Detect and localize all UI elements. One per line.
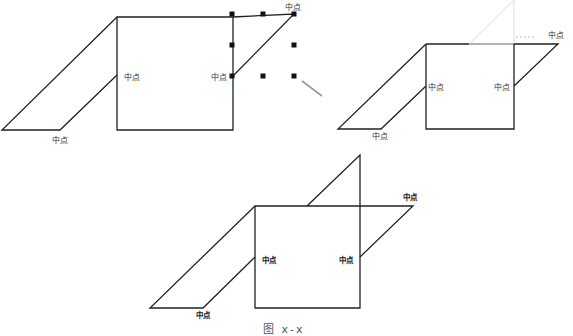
- midpoint-label: 中点: [428, 84, 444, 92]
- figure-caption: 图 x-x: [263, 324, 305, 335]
- handle-e[interactable]: [292, 43, 297, 48]
- handle-n[interactable]: [261, 12, 266, 17]
- midpoint-label: 中点: [52, 137, 68, 145]
- midpoint-label: 中点: [372, 133, 388, 141]
- panel-top-left: [2, 14, 294, 130]
- midpoint-label: 中点: [285, 4, 301, 12]
- ghost-diagonal: [469, 0, 514, 44]
- left-parallelogram: [338, 44, 426, 129]
- midpoint-label: 中点: [339, 257, 353, 265]
- panel-bottom: [150, 155, 413, 308]
- midpoint-label: 中点: [494, 84, 510, 92]
- panel-top-right: [338, 44, 558, 129]
- midpoint-label: 中点: [211, 74, 227, 82]
- handle-s[interactable]: [261, 74, 266, 79]
- rotation-arrow-icon: [302, 81, 322, 96]
- right-cut-piece: [514, 44, 558, 86]
- top-rotated-triangle: [307, 155, 360, 206]
- left-parallelogram: [2, 17, 117, 130]
- midpoint-label: 中点: [124, 74, 140, 82]
- handle-nw[interactable]: [230, 12, 235, 17]
- left-parallelogram: [150, 206, 255, 308]
- handle-se[interactable]: [292, 74, 297, 79]
- midpoint-label: 中点: [403, 194, 417, 202]
- right-cut-piece: [360, 206, 413, 257]
- midpoint-label: 中点: [262, 257, 276, 265]
- midpoint-label: 中点: [196, 312, 210, 320]
- handle-ne[interactable]: [292, 12, 297, 17]
- handle-sw[interactable]: [230, 74, 235, 79]
- handle-w[interactable]: [230, 43, 235, 48]
- midpoint-label: 中点: [548, 32, 564, 40]
- panel-top-right-ghost: [469, 0, 514, 44]
- right-cut-piece: [233, 14, 294, 76]
